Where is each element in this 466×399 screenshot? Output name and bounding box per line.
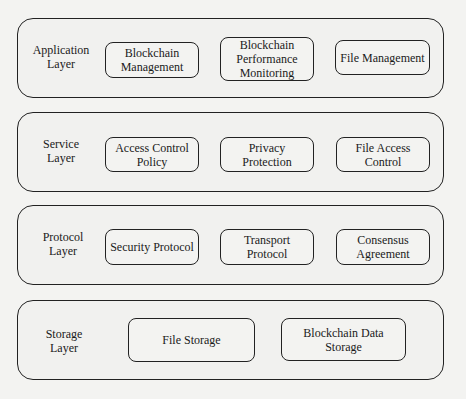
layer-label: Application Layer [32,43,90,71]
layer-label: Protocol Layer [36,230,90,258]
security-protocol-box: Security Protocol [105,229,199,265]
blockchain-data-storage-box: Blockchain Data Storage [281,318,406,361]
file-storage-box: File Storage [128,318,255,362]
transport-protocol-box: Transport Protocol [220,229,314,265]
layer-label: Service Layer [36,137,86,165]
blockchain-management-box: Blockchain Management [105,42,199,78]
layer-label: Storage Layer [42,327,86,355]
file-access-control-box: File Access Control [336,137,430,172]
blockchain-performance-monitoring-box: Blockchain Performance Monitoring [220,37,314,81]
file-management-box: File Management [335,40,430,75]
access-control-policy-box: Access Control Policy [105,137,199,172]
privacy-protection-box: Privacy Protection [220,137,314,172]
consensus-agreement-box: Consensus Agreement [336,229,430,265]
